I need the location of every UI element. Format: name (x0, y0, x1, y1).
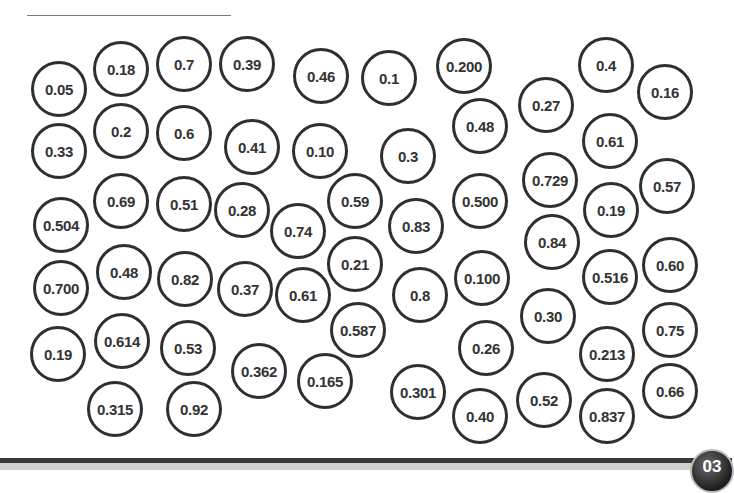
number-bubble: 0.700 (33, 260, 89, 316)
number-bubble: 0.53 (160, 320, 216, 376)
number-bubble: 0.500 (452, 173, 508, 229)
number-bubble: 0.1 (361, 50, 417, 106)
number-bubble: 0.37 (217, 261, 273, 317)
number-bubble: 0.46 (293, 48, 349, 104)
number-bubble: 0.213 (579, 326, 635, 382)
number-bubble: 0.39 (219, 36, 275, 92)
number-bubble: 0.315 (87, 381, 143, 437)
number-bubble: 0.2 (93, 103, 149, 159)
number-bubble: 0.61 (582, 113, 638, 169)
number-bubble: 0.48 (452, 98, 508, 154)
bottom-band (0, 463, 732, 470)
number-bubble: 0.52 (516, 372, 572, 428)
number-bubble: 0.92 (166, 381, 222, 437)
number-bubble: 0.10 (292, 123, 348, 179)
number-bubble: 0.26 (458, 320, 514, 376)
number-bubble: 0.19 (583, 182, 639, 238)
number-bubble: 0.83 (388, 198, 444, 254)
number-bubble: 0.614 (94, 313, 150, 369)
number-bubble: 0.18 (93, 41, 149, 97)
number-bubble: 0.84 (524, 214, 580, 270)
number-bubble: 0.587 (330, 302, 386, 358)
number-bubble: 0.27 (518, 77, 574, 133)
number-bubble: 0.6 (156, 105, 212, 161)
number-bubble: 0.40 (452, 388, 508, 444)
number-bubble: 0.21 (327, 236, 383, 292)
number-bubble: 0.165 (297, 353, 353, 409)
name-line (27, 15, 231, 16)
number-bubble: 0.61 (275, 267, 331, 323)
number-bubble: 0.4 (578, 37, 634, 93)
number-bubble: 0.200 (436, 38, 492, 94)
number-bubble: 0.41 (224, 119, 280, 175)
number-bubble: 0.7 (156, 36, 212, 92)
number-bubble: 0.729 (522, 152, 578, 208)
number-bubble: 0.504 (33, 197, 89, 253)
number-bubble: 0.05 (31, 61, 87, 117)
number-bubble: 0.74 (270, 203, 326, 259)
number-bubble: 0.51 (156, 176, 212, 232)
number-bubble: 0.100 (454, 250, 510, 306)
number-bubble: 0.3 (380, 128, 436, 184)
number-bubble: 0.16 (637, 64, 693, 120)
number-bubble: 0.301 (390, 364, 446, 420)
number-bubble: 0.362 (231, 343, 287, 399)
number-bubble: 0.28 (214, 182, 270, 238)
number-bubble: 0.33 (31, 123, 87, 179)
number-bubble: 0.75 (642, 302, 698, 358)
number-bubble: 0.60 (642, 237, 698, 293)
number-bubble: 0.8 (392, 267, 448, 323)
page-number-badge: 03 (690, 449, 734, 493)
number-bubble: 0.30 (520, 288, 576, 344)
number-bubble: 0.837 (579, 388, 635, 444)
number-bubble: 0.66 (642, 363, 698, 419)
number-bubble: 0.48 (96, 244, 152, 300)
number-bubble: 0.57 (639, 158, 695, 214)
number-bubble: 0.82 (157, 251, 213, 307)
number-bubble: 0.516 (582, 249, 638, 305)
number-bubble: 0.59 (327, 173, 383, 229)
number-bubble: 0.19 (30, 326, 86, 382)
number-bubble: 0.69 (93, 173, 149, 229)
